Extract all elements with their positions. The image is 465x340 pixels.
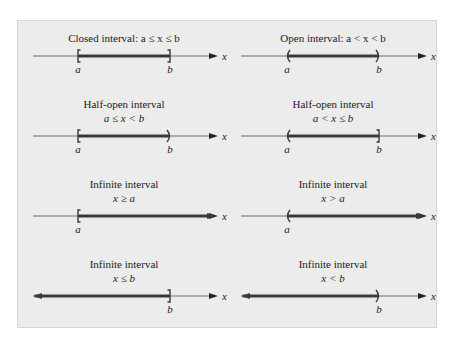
interval-notation: a ≤ x < b xyxy=(104,112,145,124)
axis-arrowhead-icon xyxy=(418,133,427,139)
endpoint-label-b: b xyxy=(376,63,382,75)
endpoint-label-a: a xyxy=(75,143,81,155)
interval-notation: x > a xyxy=(320,192,345,204)
interval-infinite-le: Infinite intervalx ≤ bxb xyxy=(33,258,227,315)
interval-notation: x ≤ b xyxy=(112,272,135,284)
left-infinite-arrow-icon xyxy=(33,293,42,299)
interval-half-open-right: Half-open intervala ≤ x < bxab xyxy=(33,98,227,155)
interval-title: Half-open interval xyxy=(293,98,374,110)
interval-title: Infinite interval xyxy=(299,178,368,190)
endpoint-label-a: a xyxy=(284,143,290,155)
axis-arrowhead-icon xyxy=(209,53,218,59)
endpoint-label-b: b xyxy=(376,303,382,315)
axis-variable-label: x xyxy=(221,50,227,62)
left-infinite-arrow-icon xyxy=(241,293,250,299)
endpoint-label-a: a xyxy=(75,63,81,75)
axis-arrowhead-icon xyxy=(418,53,427,59)
interval-diagram: Closed interval: a ≤ x ≤ bxabOpen interv… xyxy=(0,0,465,340)
interval-infinite-gt: Infinite intervalx > axa xyxy=(241,178,436,235)
endpoint-label-a: a xyxy=(75,223,81,235)
interval-title: Half-open interval xyxy=(84,98,165,110)
interval-notation: x ≥ a xyxy=(112,192,135,204)
endpoint-label-b: b xyxy=(167,303,173,315)
interval-open: Open interval: a < x < bxab xyxy=(241,32,436,75)
interval-title: Infinite interval xyxy=(299,258,368,270)
interval-title: Infinite interval xyxy=(90,258,159,270)
interval-half-open-left: Half-open intervala < x ≤ bxab xyxy=(241,98,436,155)
interval-title: Closed interval: a ≤ x ≤ b xyxy=(68,32,180,44)
axis-arrowhead-icon xyxy=(209,133,218,139)
endpoint-label-a: a xyxy=(284,63,290,75)
interval-infinite-lt: Infinite intervalx < bxb xyxy=(241,258,436,315)
interval-title: Infinite interval xyxy=(90,178,159,190)
axis-variable-label: x xyxy=(430,50,436,62)
interval-notation: x < b xyxy=(320,272,345,284)
axis-variable-label: x xyxy=(430,130,436,142)
axis-variable-label: x xyxy=(221,210,227,222)
endpoint-label-b: b xyxy=(167,63,173,75)
endpoint-label-b: b xyxy=(167,143,173,155)
interval-infinite-ge: Infinite intervalx ≥ axa xyxy=(33,178,227,235)
axis-variable-label: x xyxy=(221,290,227,302)
axis-arrowhead-icon xyxy=(209,293,218,299)
interval-closed: Closed interval: a ≤ x ≤ bxab xyxy=(33,32,227,75)
axis-variable-label: x xyxy=(221,130,227,142)
axis-variable-label: x xyxy=(430,290,436,302)
interval-title: Open interval: a < x < b xyxy=(280,32,386,44)
endpoint-label-b: b xyxy=(376,143,382,155)
axis-arrowhead-icon xyxy=(418,293,427,299)
endpoint-label-a: a xyxy=(284,223,290,235)
axis-variable-label: x xyxy=(430,210,436,222)
interval-notation: a < x ≤ b xyxy=(313,112,354,124)
